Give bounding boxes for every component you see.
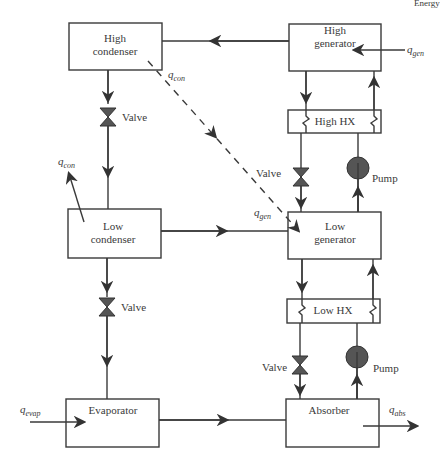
q-abs-label: qabs bbox=[389, 403, 406, 418]
q-gen-low-label: qgen bbox=[254, 206, 271, 221]
low-condenser-label-2: condenser bbox=[91, 233, 136, 245]
valve-label-right-lower: Valve bbox=[262, 361, 287, 373]
high-condenser-label-2: condenser bbox=[93, 45, 138, 57]
high-hx-label: High HX bbox=[315, 115, 356, 127]
valve-icon bbox=[293, 168, 309, 186]
valve-icon bbox=[292, 356, 308, 374]
low-generator-box: Low generator bbox=[288, 212, 381, 259]
low-condenser-label-1: Low bbox=[103, 220, 123, 232]
low-hx-label: Low HX bbox=[314, 304, 353, 316]
q-gen-high-label: qgen bbox=[407, 43, 424, 58]
corner-text: Energy bbox=[414, 0, 440, 8]
pump-label-upper: Pump bbox=[372, 172, 398, 184]
evaporator-box: Evaporator bbox=[66, 399, 159, 447]
valve-label-left-lower: Valve bbox=[121, 301, 146, 313]
high-generator-label-2: generator bbox=[314, 37, 356, 49]
q-con-low-label: qcon bbox=[58, 155, 75, 170]
heat-transfer-dashed-line bbox=[148, 61, 296, 228]
high-generator-label-1: High bbox=[324, 24, 347, 36]
high-generator-box: High generator bbox=[289, 24, 381, 71]
absorber-box: Absorber bbox=[286, 399, 379, 447]
absorber-label: Absorber bbox=[309, 404, 350, 416]
low-generator-label-2: generator bbox=[314, 233, 356, 245]
valve-label-right-upper: Valve bbox=[256, 167, 281, 179]
absorption-cycle-diagram: Energy High condenser High generator Hig… bbox=[0, 0, 440, 470]
q-con-high-label: qcon bbox=[168, 68, 185, 83]
q-evap-label: qevap bbox=[20, 403, 41, 418]
evaporator-label: Evaporator bbox=[89, 404, 138, 416]
high-condenser-box: High condenser bbox=[69, 23, 162, 70]
valve-icon bbox=[99, 298, 115, 316]
pump-label-lower: Pump bbox=[373, 362, 399, 374]
valve-icon bbox=[100, 108, 116, 126]
high-hx-box: High HX bbox=[288, 110, 381, 133]
low-generator-label-1: Low bbox=[325, 220, 345, 232]
high-condenser-label-1: High bbox=[104, 32, 127, 44]
valve-label-left-upper: Valve bbox=[122, 111, 147, 123]
